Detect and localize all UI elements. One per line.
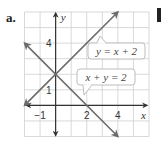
y-axis-label: y (60, 11, 66, 23)
x-axis-label: x (140, 109, 146, 121)
equation-label: x + y = 2 (84, 71, 127, 83)
y-tick-label: 1 (46, 85, 52, 96)
y-tick-label: 4 (46, 38, 52, 49)
x-tick-label: −1 (34, 110, 46, 121)
x-tick-label: 2 (84, 110, 90, 121)
callout-y-equals-x-plus-2: y = x + 2 (88, 36, 145, 59)
x-tick-label: 4 (115, 110, 121, 121)
equation-label: y = x + 2 (95, 45, 138, 57)
callout-x-plus-y-equals-2: x + y = 2 (77, 69, 135, 95)
coordinate-plane: xy−12414y = x + 2x + y = 2 (0, 0, 161, 148)
